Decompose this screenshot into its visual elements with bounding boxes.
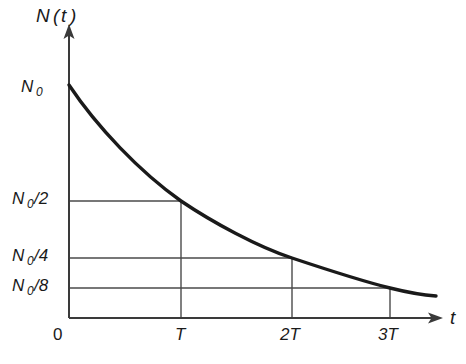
y-tick-n0-quarter-sub: 0 xyxy=(27,254,34,268)
y-tick-n0-eighth-sub: 0 xyxy=(27,284,34,298)
y-tick-n0-half-sub: 0 xyxy=(27,197,34,211)
x-axis-title: t xyxy=(450,307,456,328)
chart-svg: N ( t ) t N 0 N 0 /2 N 0 /4 N 0 /8 0 T xyxy=(0,0,466,364)
y-tick-n0-main: N xyxy=(21,77,34,96)
y-tick-n0-half-rest: /2 xyxy=(33,189,49,208)
x-tick-label-t: T xyxy=(175,325,187,344)
y-tick-n0-eighth-main: N xyxy=(12,276,25,295)
y-axis-title-t: t xyxy=(61,5,67,26)
y-axis-title-paren-close: ) xyxy=(68,5,76,26)
y-tick-n0-half-main: N xyxy=(12,189,25,208)
y-tick-n0-quarter-main: N xyxy=(12,246,25,265)
y-axis-title: N ( t ) xyxy=(36,5,76,26)
y-tick-n0-eighth-rest: /8 xyxy=(33,276,49,295)
x-tick-label-2t: 2T xyxy=(279,325,301,344)
y-tick-n0-quarter-rest: /4 xyxy=(33,246,48,265)
decay-chart-figure: N ( t ) t N 0 N 0 /2 N 0 /4 N 0 /8 0 T xyxy=(0,0,466,364)
x-tick-label-3t: 3T xyxy=(378,325,399,344)
x-tick-label-origin: 0 xyxy=(53,325,62,344)
y-tick-n0-sub: 0 xyxy=(36,85,43,99)
y-axis-title-n: N xyxy=(36,5,50,26)
